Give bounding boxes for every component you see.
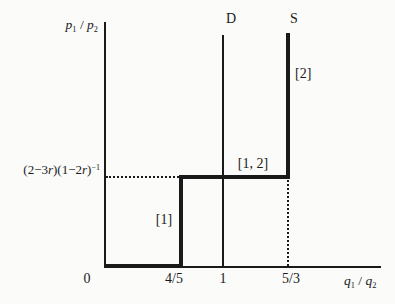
- dotted-guide-horizontal: [106, 176, 179, 178]
- x-axis-var1: q: [344, 273, 351, 288]
- regime-1-label: [1]: [152, 213, 176, 227]
- demand-curve-label: D: [223, 12, 239, 26]
- y-tick-part1: (2−3: [23, 162, 48, 177]
- regime-12-label: [1, 2]: [232, 157, 274, 171]
- y-tick-sup: −1: [91, 163, 100, 172]
- y-axis-sub2: 2: [94, 25, 98, 34]
- x-tick-1: 1: [216, 272, 230, 286]
- step-bottom-segment: [104, 264, 183, 268]
- y-axis-slash: /: [77, 17, 88, 32]
- y-tick-part2: )(1−2: [53, 162, 82, 177]
- y-axis-line: [104, 22, 106, 267]
- y-axis-var2: p: [87, 17, 94, 32]
- dotted-guide-vertical: [287, 180, 289, 266]
- x-tick-4-5: 4/5: [162, 272, 186, 286]
- supply-line: [286, 33, 290, 179]
- supply-curve-label: S: [286, 12, 302, 26]
- x-axis-label: q1 / q2: [344, 274, 388, 288]
- y-axis-label: p1 / p2: [55, 18, 98, 32]
- demand-line: [222, 35, 224, 267]
- origin-label: 0: [80, 272, 94, 286]
- x-axis-slash: /: [355, 273, 366, 288]
- step-function-chart: p1 / p2 q1 / q2 D S [2] [1, 2] [1] (2−3r…: [0, 0, 395, 304]
- x-axis-sub2: 2: [372, 281, 376, 290]
- step-riser-segment: [179, 175, 183, 268]
- regime-2-label: [2]: [295, 67, 311, 81]
- x-tick-5-3: 5/3: [279, 272, 303, 286]
- step-plateau-segment: [179, 175, 290, 179]
- y-tick-label: (2−3r)(1−2r)−1: [6, 163, 100, 176]
